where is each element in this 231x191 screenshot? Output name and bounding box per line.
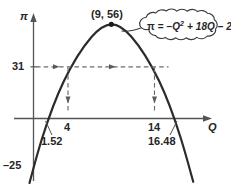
root-high-leader xyxy=(170,121,177,135)
y-axis-arrowhead xyxy=(30,13,36,22)
equation-equals: = xyxy=(155,21,167,32)
q-low-arrowhead xyxy=(66,97,71,104)
x-axis-label: Q xyxy=(208,122,217,133)
vertex-point-marker xyxy=(109,22,114,27)
equation-lhs: π xyxy=(147,21,155,32)
level-arrow-left xyxy=(53,64,60,69)
equation-term2: + 18Q xyxy=(184,21,215,32)
root-high-label: 16.48 xyxy=(148,136,176,147)
profit-level-guideline xyxy=(36,64,169,69)
vertex-label: (9, 56) xyxy=(91,9,123,20)
equation-term1-base: Q xyxy=(172,21,180,32)
level-arrow-mid xyxy=(109,64,116,69)
profit-level-label: 31 xyxy=(12,61,24,72)
q-high-arrowhead xyxy=(152,97,157,104)
q-low-tick-label: 4 xyxy=(64,122,70,133)
parabola-curve xyxy=(30,24,194,183)
y-axis-label: π xyxy=(20,11,28,22)
equation-text: π = –Q2 + 18Q – 25 xyxy=(147,20,231,32)
y-intercept-label: –25 xyxy=(3,160,21,171)
q-high-tick-label: 14 xyxy=(148,122,160,133)
root-low-label: 1.52 xyxy=(41,136,62,147)
profit-parabola-figure: π Q (9, 56) 31 4 14 1.52 16.48 –25 π = –… xyxy=(0,0,231,191)
equation-term3: – 25 xyxy=(215,21,231,32)
